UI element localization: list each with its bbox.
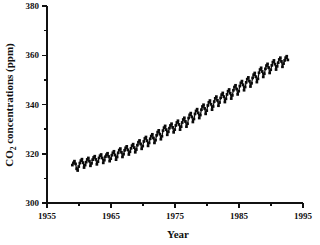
- data-point-marker: [138, 139, 141, 142]
- data-point-marker: [130, 147, 133, 150]
- data-point-marker: [174, 124, 177, 127]
- y-tick-label: 380: [26, 1, 40, 11]
- data-point-marker: [224, 101, 227, 104]
- data-point-marker: [140, 147, 143, 150]
- data-point-marker: [183, 116, 186, 119]
- x-tick-label: 1975: [166, 211, 185, 221]
- data-point-marker: [97, 160, 100, 163]
- data-point-marker: [276, 65, 279, 68]
- data-point-marker: [238, 85, 241, 88]
- data-point-marker: [83, 166, 86, 169]
- data-point-marker: [218, 101, 221, 104]
- data-point-marker: [286, 59, 289, 62]
- data-point-marker: [161, 135, 164, 138]
- data-point-marker: [179, 128, 182, 131]
- data-point-marker: [251, 77, 254, 80]
- data-point-marker: [134, 151, 137, 154]
- data-point-marker: [263, 72, 266, 75]
- data-point-marker: [199, 114, 202, 117]
- data-point-marker: [193, 118, 196, 121]
- data-point-marker: [247, 76, 250, 79]
- y-axis-group: 300320340360380 CO2 concentrations (ppm): [3, 1, 47, 208]
- data-point-marker: [211, 108, 214, 111]
- data-point-marker: [113, 150, 116, 153]
- data-point-marker: [173, 128, 176, 131]
- data-point-marker: [264, 67, 267, 70]
- data-point-marker: [277, 61, 280, 64]
- data-point-marker: [108, 160, 111, 163]
- data-point-marker: [77, 165, 80, 168]
- data-point-marker: [205, 109, 208, 112]
- data-point-marker: [168, 127, 171, 130]
- data-point-marker: [241, 80, 244, 83]
- y-tick-label: 320: [26, 149, 40, 159]
- data-point-marker: [273, 59, 276, 62]
- data-point-marker: [283, 59, 286, 62]
- data-point-marker: [180, 125, 183, 128]
- data-point-marker: [74, 163, 77, 166]
- data-point-marker: [117, 151, 120, 154]
- data-point-marker: [151, 133, 154, 136]
- y-tick-label: 340: [26, 100, 40, 110]
- data-point-marker: [109, 157, 112, 160]
- data-point-marker: [262, 76, 265, 79]
- data-point-marker: [76, 169, 79, 172]
- data-point-marker: [285, 55, 288, 58]
- data-point-marker: [206, 104, 209, 107]
- data-point-marker: [93, 155, 96, 158]
- data-point-marker: [209, 99, 212, 102]
- data-point-marker: [153, 142, 156, 145]
- data-point-marker: [219, 97, 222, 100]
- data-point-marker: [121, 156, 124, 159]
- data-point-marker: [149, 137, 152, 140]
- data-point-marker: [106, 152, 109, 155]
- data-point-marker: [110, 154, 113, 157]
- data-point-marker: [84, 164, 87, 167]
- data-point-marker: [221, 92, 224, 95]
- co2-series-markers: [71, 55, 289, 172]
- data-point-marker: [200, 108, 203, 111]
- data-point-marker: [128, 153, 131, 156]
- data-point-marker: [166, 133, 169, 136]
- data-point-marker: [187, 117, 190, 120]
- data-point-marker: [125, 145, 128, 148]
- chart-svg: 300320340360380 CO2 concentrations (ppm)…: [0, 0, 320, 245]
- data-point-marker: [275, 68, 278, 71]
- data-point-marker: [257, 78, 260, 81]
- data-series-group: [71, 55, 289, 172]
- data-point-marker: [189, 112, 192, 115]
- data-point-marker: [177, 119, 180, 122]
- x-tick-label: 1955: [38, 211, 57, 221]
- data-point-marker: [237, 90, 240, 93]
- data-point-marker: [279, 56, 282, 59]
- data-point-marker: [253, 72, 256, 75]
- data-point-marker: [170, 122, 173, 125]
- data-point-marker: [145, 136, 148, 139]
- data-point-marker: [129, 150, 132, 153]
- data-point-marker: [157, 129, 160, 132]
- y-tick-label: 300: [26, 198, 40, 208]
- data-point-marker: [123, 149, 126, 152]
- data-point-marker: [85, 161, 88, 164]
- x-tick-label: 1995: [294, 211, 313, 221]
- data-point-marker: [217, 104, 220, 107]
- data-point-marker: [198, 117, 201, 120]
- data-point-marker: [142, 140, 145, 143]
- data-point-marker: [268, 72, 271, 75]
- co2-concentration-chart: 300320340360380 CO2 concentrations (ppm)…: [0, 0, 320, 245]
- data-point-marker: [256, 81, 259, 84]
- x-axis-title: Year: [167, 228, 189, 240]
- data-point-marker: [167, 130, 170, 133]
- x-axis-group: 19551965197519851995 Year: [38, 203, 313, 240]
- data-point-marker: [212, 105, 215, 108]
- data-point-marker: [155, 134, 158, 137]
- y-axis-title: CO2 concentrations (ppm): [3, 43, 18, 167]
- data-point-marker: [164, 125, 167, 128]
- data-point-marker: [228, 88, 231, 91]
- data-point-marker: [160, 138, 163, 141]
- x-tick-label: 1985: [230, 211, 249, 221]
- data-point-marker: [270, 64, 273, 67]
- data-point-marker: [192, 121, 195, 124]
- data-point-marker: [116, 156, 119, 159]
- data-point-marker: [185, 125, 188, 128]
